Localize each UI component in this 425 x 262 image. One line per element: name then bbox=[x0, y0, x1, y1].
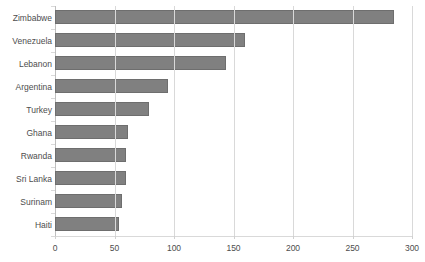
plot-area bbox=[55, 6, 412, 236]
bar bbox=[55, 33, 245, 47]
y-tick-mark bbox=[51, 236, 55, 237]
x-tick-label-200: 200 bbox=[278, 243, 308, 254]
y-tick-mark bbox=[51, 144, 55, 145]
gridline-100 bbox=[174, 6, 175, 236]
x-tick-label-0: 0 bbox=[40, 243, 70, 254]
category-label: Sri Lanka bbox=[0, 174, 52, 184]
x-tick-mark-100 bbox=[174, 236, 175, 239]
category-label: Argentina bbox=[0, 82, 52, 92]
x-tick-label-250: 250 bbox=[338, 243, 368, 254]
x-tick-label-300: 300 bbox=[397, 243, 425, 254]
bar bbox=[55, 10, 394, 24]
category-label: Lebanon bbox=[0, 59, 52, 69]
y-tick-mark bbox=[51, 75, 55, 76]
y-tick-mark bbox=[51, 29, 55, 30]
x-tick-mark-50 bbox=[115, 236, 116, 239]
y-tick-mark bbox=[51, 6, 55, 7]
bar bbox=[55, 125, 128, 139]
bar-chart: ZimbabweVenezuelaLebanonArgentinaTurkeyG… bbox=[0, 0, 425, 262]
x-tick-label-100: 100 bbox=[159, 243, 189, 254]
category-label: Turkey bbox=[0, 105, 52, 115]
bar bbox=[55, 56, 226, 70]
x-tick-mark-150 bbox=[234, 236, 235, 239]
x-tick-mark-250 bbox=[353, 236, 354, 239]
bar bbox=[55, 102, 149, 116]
bar bbox=[55, 171, 126, 185]
x-tick-mark-300 bbox=[412, 236, 413, 239]
y-tick-mark bbox=[51, 121, 55, 122]
gridline-200 bbox=[293, 6, 294, 236]
bar bbox=[55, 79, 168, 93]
category-label: Haiti bbox=[0, 220, 52, 230]
gridline-50 bbox=[115, 6, 116, 236]
y-tick-mark bbox=[51, 190, 55, 191]
x-tick-label-150: 150 bbox=[219, 243, 249, 254]
y-tick-mark bbox=[51, 98, 55, 99]
x-tick-mark-200 bbox=[293, 236, 294, 239]
gridline-250 bbox=[353, 6, 354, 236]
category-label: Zimbabwe bbox=[0, 13, 52, 23]
y-tick-mark bbox=[51, 52, 55, 53]
gridline-150 bbox=[234, 6, 235, 236]
category-label: Surinam bbox=[0, 197, 52, 207]
category-axis-labels: ZimbabweVenezuelaLebanonArgentinaTurkeyG… bbox=[0, 6, 52, 236]
x-tick-mark-0 bbox=[55, 236, 56, 239]
gridline-300 bbox=[412, 6, 413, 236]
category-label: Rwanda bbox=[0, 151, 52, 161]
bar bbox=[55, 148, 126, 162]
y-tick-mark bbox=[51, 213, 55, 214]
x-tick-label-50: 50 bbox=[100, 243, 130, 254]
category-label: Ghana bbox=[0, 128, 52, 138]
bar bbox=[55, 194, 122, 208]
y-tick-mark bbox=[51, 167, 55, 168]
bar bbox=[55, 217, 119, 231]
category-label: Venezuela bbox=[0, 36, 52, 46]
